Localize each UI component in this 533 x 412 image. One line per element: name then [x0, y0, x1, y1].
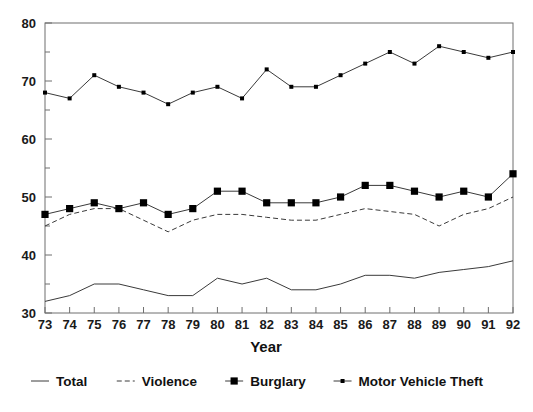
x-tick-label: 78: [161, 317, 175, 332]
legend-label: Burglary: [250, 374, 306, 389]
data-point-marker: [263, 199, 270, 206]
legend-label: Total: [56, 374, 87, 389]
x-tick-label: 75: [87, 317, 101, 332]
data-point-marker: [189, 205, 196, 212]
data-point-marker: [411, 188, 418, 195]
data-point-marker: [362, 182, 369, 189]
data-point-marker: [388, 50, 392, 54]
x-tick-label: 74: [62, 317, 77, 332]
legend-swatch-square-marker-icon: [231, 377, 238, 384]
data-point-marker: [265, 67, 269, 71]
x-axis-title: Year: [250, 338, 282, 355]
legend-label: Violence: [142, 374, 198, 389]
x-tick-label: 73: [38, 317, 52, 332]
data-point-marker: [240, 96, 244, 100]
data-point-marker: [68, 96, 72, 100]
data-point-marker: [289, 85, 293, 89]
legend-swatch-dot-marker-icon: [341, 379, 345, 383]
data-point-marker: [215, 85, 219, 89]
y-tick-label: 70: [22, 74, 36, 89]
y-tick-label: 60: [22, 132, 36, 147]
data-point-marker: [511, 50, 515, 54]
data-point-marker: [288, 199, 295, 206]
data-point-marker: [191, 91, 195, 95]
y-tick-label: 30: [22, 306, 36, 321]
chart-container: 304050607080 737475767778798081828384858…: [0, 0, 533, 412]
y-tick-label: 40: [22, 248, 36, 263]
x-tick-label: 90: [457, 317, 471, 332]
x-tick-label: 82: [259, 317, 273, 332]
data-point-marker: [363, 62, 367, 66]
x-tick-label: 85: [333, 317, 347, 332]
data-point-marker: [337, 193, 344, 200]
data-point-marker: [41, 211, 48, 218]
x-tick-label: 76: [112, 317, 126, 332]
x-tick-label: 81: [235, 317, 249, 332]
x-tick-label: 79: [186, 317, 200, 332]
data-point-marker: [486, 56, 490, 60]
data-point-marker: [485, 193, 492, 200]
data-point-marker: [66, 205, 73, 212]
data-point-marker: [339, 73, 343, 77]
y-tick-label: 80: [22, 16, 36, 31]
data-point-marker: [91, 199, 98, 206]
y-tick-label: 50: [22, 190, 36, 205]
x-tick-label: 77: [136, 317, 150, 332]
data-point-marker: [314, 85, 318, 89]
x-tick-label: 88: [407, 317, 421, 332]
data-point-marker: [43, 91, 47, 95]
data-point-marker: [92, 73, 96, 77]
x-tick-label: 86: [358, 317, 372, 332]
data-point-marker: [165, 211, 172, 218]
data-point-marker: [509, 170, 516, 177]
data-point-marker: [142, 91, 146, 95]
data-point-marker: [117, 85, 121, 89]
line-chart: 304050607080 737475767778798081828384858…: [0, 0, 533, 412]
data-point-marker: [166, 102, 170, 106]
x-tick-label: 84: [309, 317, 324, 332]
data-point-marker: [462, 50, 466, 54]
data-point-marker: [460, 188, 467, 195]
data-point-marker: [437, 44, 441, 48]
x-tick-label: 92: [506, 317, 520, 332]
x-tick-label: 89: [432, 317, 446, 332]
data-point-marker: [140, 199, 147, 206]
data-point-marker: [238, 188, 245, 195]
x-tick-label: 83: [284, 317, 298, 332]
x-tick-label: 91: [481, 317, 495, 332]
x-tick-label: 80: [210, 317, 224, 332]
data-point-marker: [386, 182, 393, 189]
data-point-marker: [436, 193, 443, 200]
data-point-marker: [115, 205, 122, 212]
data-point-marker: [312, 199, 319, 206]
legend-label: Motor Vehicle Theft: [359, 374, 484, 389]
data-point-marker: [214, 188, 221, 195]
x-tick-label: 87: [383, 317, 397, 332]
data-point-marker: [412, 62, 416, 66]
